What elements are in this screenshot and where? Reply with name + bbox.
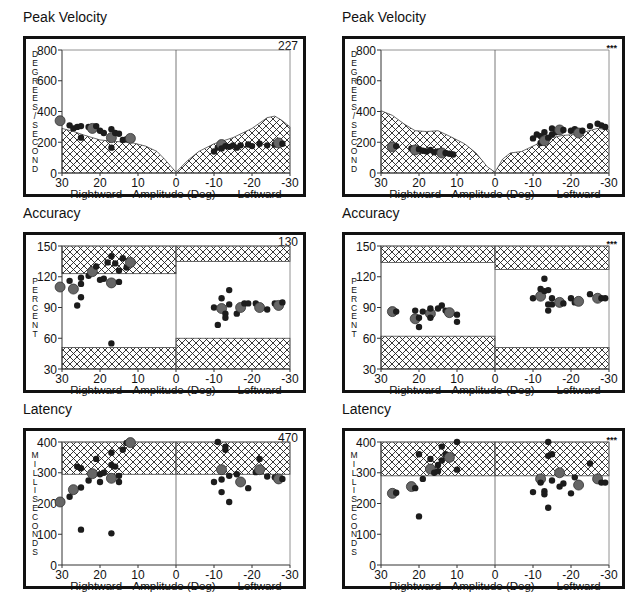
chart-badge: 227 [278, 39, 298, 53]
y-tick-label: 600 [356, 74, 376, 88]
data-point [101, 130, 107, 136]
data-point-large [125, 257, 135, 267]
data-point-large [55, 497, 65, 507]
x-tick-label: -30 [600, 568, 618, 582]
y-axis-label: DEGREES/SECOND [32, 49, 39, 173]
chart-title: Accuracy [342, 205, 400, 221]
y-tick-label: 300 [37, 466, 57, 480]
y-tick-label: 200 [37, 136, 57, 150]
hatch-left-upper [495, 246, 609, 270]
data-point [116, 479, 122, 485]
data-point-large [574, 480, 584, 490]
data-point [226, 301, 232, 307]
data-point [454, 466, 460, 472]
data-point [108, 253, 114, 259]
hatch-left-lower [495, 347, 609, 369]
data-point-large [87, 469, 97, 479]
data-point [112, 463, 118, 469]
data-point [545, 307, 551, 313]
data-point-large [444, 452, 454, 462]
data-point [393, 143, 399, 149]
data-point [218, 476, 224, 482]
x-tick-label: -30 [281, 372, 299, 386]
data-point [541, 129, 547, 135]
data-point [226, 287, 232, 293]
x-tick-label: -30 [281, 176, 299, 190]
data-point [245, 300, 251, 306]
data-point [602, 124, 608, 130]
data-point-large [125, 133, 135, 143]
data-point [416, 315, 422, 321]
panel-latency-right: Latency***0100200300400MILLISECONDS30201… [342, 401, 624, 592]
data-point [435, 468, 441, 474]
x-label-rightward: Rightward [70, 580, 122, 592]
data-point [245, 485, 251, 491]
x-label-rightward: Rightward [389, 580, 441, 592]
data-point [545, 439, 551, 445]
data-point [66, 278, 72, 284]
data-point-large [55, 282, 65, 292]
y-tick-label: 150 [37, 240, 57, 254]
data-point-large [55, 116, 65, 126]
data-point [568, 490, 574, 496]
data-point [602, 479, 608, 485]
data-point [112, 260, 118, 266]
x-tick-label: -30 [600, 176, 618, 190]
x-tick-label: 30 [374, 568, 388, 582]
x-tick-label: 30 [374, 176, 388, 190]
x-axis-label: Amplitude (Deg) [452, 384, 535, 396]
data-point [78, 484, 84, 490]
data-point-large [125, 438, 135, 448]
data-point [218, 295, 224, 301]
data-point [78, 275, 84, 281]
data-point [264, 473, 270, 479]
data-point [108, 340, 114, 346]
data-point [116, 131, 122, 137]
chart-title: Latency [342, 401, 391, 417]
data-point [393, 308, 399, 314]
hatch-left-upper [495, 442, 609, 476]
chart-title: Peak Velocity [23, 9, 107, 25]
data-point [412, 485, 418, 491]
data-point [97, 479, 103, 485]
data-point [587, 291, 593, 297]
y-tick-label: 100 [356, 528, 376, 542]
data-point [116, 267, 122, 273]
data-point [226, 499, 232, 505]
x-label-leftward: Leftward [557, 188, 601, 200]
data-point-large [255, 465, 265, 475]
panel-peak-velocity-left: Peak Velocity2270200400600800DEGREES/SEC… [23, 9, 305, 200]
data-point [572, 474, 578, 480]
data-point [120, 255, 126, 261]
y-tick-label: 800 [356, 44, 376, 58]
data-point [393, 490, 399, 496]
y-tick-label: 200 [356, 136, 376, 150]
data-point [537, 479, 543, 485]
data-point [412, 307, 418, 313]
data-point [78, 134, 84, 140]
y-tick-label: 90 [44, 301, 58, 315]
hatch-left-upper [176, 246, 290, 261]
data-point [279, 299, 285, 305]
panel-accuracy-right: Accuracy***306090120150PERCENT3020100-10… [342, 205, 624, 396]
data-point [450, 151, 456, 157]
y-axis-label: PERCENT [32, 276, 38, 339]
data-point [541, 491, 547, 497]
x-tick-label: -30 [281, 568, 299, 582]
y-tick-label: 400 [356, 105, 376, 119]
data-point [549, 477, 555, 483]
data-point [560, 127, 566, 133]
data-point [264, 142, 270, 148]
data-point [93, 456, 99, 462]
data-point [108, 144, 114, 150]
data-point [120, 446, 126, 452]
chart-badge: *** [606, 43, 617, 53]
x-label-rightward: Rightward [70, 188, 122, 200]
data-point [215, 322, 221, 328]
data-point [545, 505, 551, 511]
data-point [530, 489, 536, 495]
y-tick-label: 400 [356, 436, 376, 450]
data-point-large [555, 468, 565, 478]
panel-peak-velocity-right: Peak Velocity***0200400600800DEGREES/SEC… [342, 9, 624, 200]
data-point [108, 450, 114, 456]
